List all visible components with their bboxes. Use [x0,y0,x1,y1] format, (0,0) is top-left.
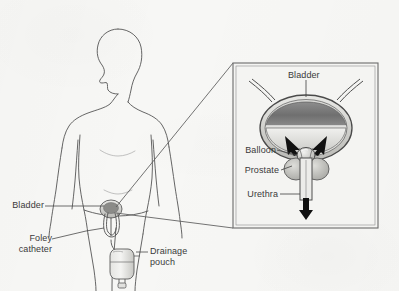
label-bladder-body: Bladder [4,200,44,211]
label-foley-catheter: Foley catheter [4,233,52,254]
label-prostate: Prostate [234,165,279,176]
magnification-connectors [116,63,233,228]
leader-foley-catheter [52,228,104,239]
label-bladder-inset: Bladder [288,70,332,81]
label-balloon: Balloon [234,145,276,156]
label-urethra: Urethra [234,189,278,200]
label-drainage-pouch: Drainage pouch [150,246,206,267]
body-leader-lines [45,206,148,252]
urethra-shape [300,158,312,200]
foley-catheter-figure: Bladder Foley catheter Drainage pouch Bl… [0,0,399,291]
